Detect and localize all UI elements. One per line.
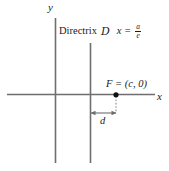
directrix-fraction-denominator: e bbox=[135, 32, 140, 40]
y-axis-label: y bbox=[48, 2, 53, 13]
focus-point-dot bbox=[113, 92, 118, 97]
directrix-word: Directrix bbox=[59, 26, 97, 37]
directrix-fraction-numerator: a bbox=[135, 23, 141, 31]
directrix-label: Directrix D x = a e bbox=[59, 23, 141, 40]
distance-arrow-head-right bbox=[112, 111, 117, 116]
directrix-equation-lhs: x = bbox=[117, 26, 131, 37]
directrix-fraction: a e bbox=[135, 23, 141, 40]
directrix-symbol: D bbox=[100, 26, 110, 37]
x-axis-label: x bbox=[157, 91, 162, 102]
conic-directrix-figure: y x Directrix D x = a e F = (c, 0) d bbox=[0, 0, 169, 171]
focus-label: F = (c, 0) bbox=[106, 79, 147, 90]
distance-label: d bbox=[100, 116, 105, 127]
